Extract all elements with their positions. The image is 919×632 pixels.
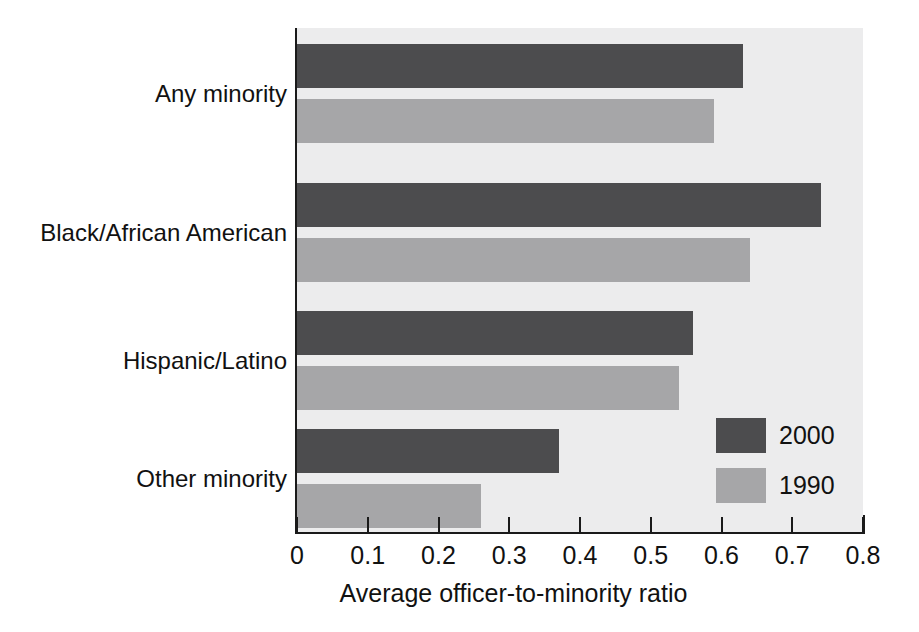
category-labels: Any minorityBlack/African AmericanHispan…: [0, 0, 287, 632]
x-tick-label: 0.4: [545, 540, 615, 570]
category-label-hispanic-latino: Hispanic/Latino: [0, 347, 287, 375]
x-tick-label: 0.3: [474, 540, 544, 570]
x-tick-mark: [721, 517, 723, 534]
x-tick-mark: [367, 517, 369, 534]
legend-label-1990: 1990: [779, 470, 835, 500]
legend-swatch-1990: [716, 468, 766, 503]
legend: 20001990: [716, 418, 866, 508]
x-tick-label: 0.1: [333, 540, 403, 570]
x-tick-mark: [650, 517, 652, 534]
legend-label-2000: 2000: [779, 420, 835, 450]
bar-2000-black-african-american: [297, 183, 821, 227]
x-tick-mark: [296, 517, 298, 534]
x-tick-label: 0.7: [757, 540, 827, 570]
x-tick-label: 0.8: [828, 540, 898, 570]
x-tick-label: 0.5: [616, 540, 686, 570]
bar-chart-figure: 00.10.20.30.40.50.60.70.8 Any minorityBl…: [0, 0, 919, 632]
bar-1990-hispanic-latino: [297, 366, 679, 410]
x-tick-mark: [438, 517, 440, 534]
bar-1990-any-minority: [297, 99, 714, 143]
x-tick-label: 0.6: [687, 540, 757, 570]
category-label-any-minority: Any minority: [0, 80, 287, 108]
bar-1990-black-african-american: [297, 238, 750, 282]
category-label-other-minority: Other minority: [0, 465, 287, 493]
bar-2000-any-minority: [297, 44, 743, 88]
legend-swatch-2000: [716, 418, 766, 453]
x-tick-label: 0.2: [404, 540, 474, 570]
bar-1990-other-minority: [297, 484, 481, 528]
x-tick-mark: [791, 517, 793, 534]
bar-2000-hispanic-latino: [297, 311, 693, 355]
bar-2000-other-minority: [297, 429, 559, 473]
x-tick-mark: [508, 517, 510, 534]
category-label-black-african-american: Black/African American: [0, 219, 287, 247]
y-axis-line: [295, 28, 297, 534]
x-tick-mark: [862, 517, 864, 534]
x-axis-title: Average officer-to-minority ratio: [0, 578, 919, 608]
x-tick-mark: [579, 517, 581, 534]
